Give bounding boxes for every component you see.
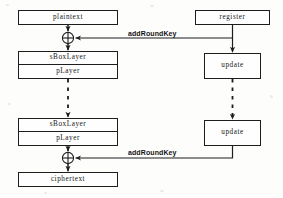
node-ciphertext-label: ciphertext bbox=[51, 176, 85, 183]
node-register-label: register bbox=[220, 14, 246, 21]
node-sboxlayer-1: sBoxLayer bbox=[18, 51, 118, 65]
edge-label-addroundkey-bottom: addRoundKey bbox=[128, 149, 177, 156]
node-update-1: update bbox=[204, 53, 261, 79]
node-player-1: pLayer bbox=[18, 65, 118, 79]
xor-operator-top bbox=[62, 32, 73, 43]
node-sboxlayer-2-label: sBoxLayer bbox=[50, 121, 87, 128]
node-plaintext: plaintext bbox=[18, 10, 118, 25]
node-sboxlayer-2: sBoxLayer bbox=[18, 118, 118, 132]
node-ciphertext: ciphertext bbox=[18, 172, 118, 187]
node-update-2: update bbox=[204, 120, 261, 146]
node-player-2: pLayer bbox=[18, 132, 118, 146]
node-sboxlayer-1-label: sBoxLayer bbox=[50, 54, 87, 61]
node-player-2-label: pLayer bbox=[56, 135, 80, 142]
node-update-1-label: update bbox=[221, 62, 243, 69]
diagram-canvas: plaintext register sBoxLayer pLayer upda… bbox=[0, 0, 283, 198]
xor-operator-bottom bbox=[62, 152, 73, 163]
node-update-2-label: update bbox=[221, 129, 243, 136]
edge-label-addroundkey-top: addRoundKey bbox=[128, 30, 177, 37]
node-player-1-label: pLayer bbox=[56, 68, 80, 75]
node-register: register bbox=[195, 10, 270, 25]
node-plaintext-label: plaintext bbox=[53, 14, 83, 21]
